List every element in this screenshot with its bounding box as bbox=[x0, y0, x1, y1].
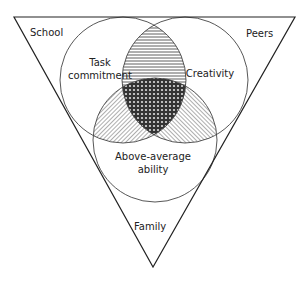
label-commitment: commitment bbox=[68, 70, 132, 81]
label-above-average: Above-average bbox=[115, 151, 191, 162]
venn-diagram: School Peers Family Task commitment Crea… bbox=[0, 0, 308, 285]
label-school: School bbox=[30, 27, 63, 38]
label-family: Family bbox=[134, 221, 166, 232]
label-ability: ability bbox=[138, 164, 169, 175]
label-creativity: Creativity bbox=[186, 68, 234, 79]
label-peers: Peers bbox=[246, 28, 273, 39]
label-task: Task bbox=[88, 57, 111, 68]
